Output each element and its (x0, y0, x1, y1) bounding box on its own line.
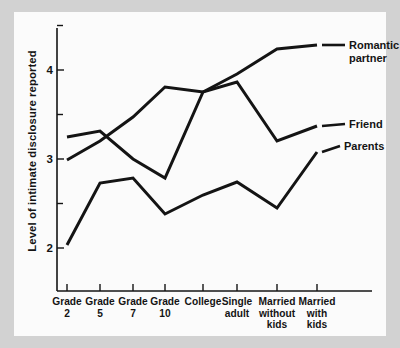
series-group (67, 45, 317, 245)
x-tick-label: Grade7 (118, 296, 148, 319)
series-line-friend (67, 82, 317, 160)
line-chart: RomanticpartnerFriendParents Grade2Grade… (0, 0, 400, 348)
x-tick-label: Grade2 (52, 296, 82, 319)
figure-container: Level of intimate disclosure reported Ro… (0, 0, 400, 348)
x-tick-label: Singleadult (222, 296, 253, 319)
y-tick-label-group: 234 (47, 64, 54, 254)
x-tick-label: Marriedwithkids (299, 296, 336, 330)
x-tick-group (67, 284, 317, 291)
axes-group (57, 28, 372, 291)
x-tick-label: College (185, 296, 222, 307)
series-line-romantic-partner (67, 45, 317, 178)
x-tick-label: Grade5 (85, 296, 115, 319)
y-tick-group (57, 26, 64, 249)
y-tick-label: 3 (47, 153, 53, 165)
legend-leader-parents (322, 146, 340, 152)
x-tick-label: Marriedwithoutkids (258, 296, 296, 330)
y-tick-label: 4 (47, 64, 54, 76)
x-tick-label: Grade10 (150, 296, 180, 319)
y-tick-label: 2 (47, 242, 53, 254)
series-label-group: RomanticpartnerFriendParents (344, 39, 399, 152)
x-tick-label-group: Grade2Grade5Grade7Grade10CollegeSinglead… (52, 296, 335, 330)
legend-leader-group (322, 45, 345, 152)
series-line-parents (67, 152, 317, 245)
legend-leader-friend (322, 124, 345, 126)
series-label-friend: Friend (349, 118, 383, 130)
series-label-parents: Parents (344, 140, 384, 152)
series-label-romantic-partner: Romanticpartner (349, 39, 399, 64)
